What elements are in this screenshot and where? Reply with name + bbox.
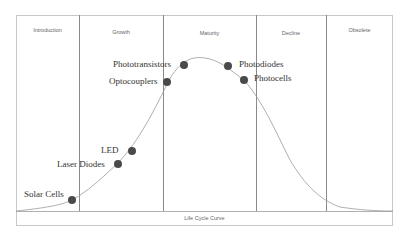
label-laser-diodes: Laser Diodes	[57, 159, 105, 169]
point-photocells	[240, 76, 248, 84]
label-optocouplers: Optocouplers	[109, 76, 158, 86]
point-phototransistors	[180, 61, 188, 69]
point-led	[128, 147, 136, 155]
life-cycle-curve	[0, 0, 410, 239]
diagram-caption: Life Cycle Curve	[16, 215, 393, 221]
label-photodiodes: Photodiodes	[239, 59, 284, 69]
label-photocells: Photocells	[254, 73, 292, 83]
point-laser-diodes	[114, 160, 122, 168]
label-phototransistors: Phototransistors	[113, 59, 171, 69]
point-optocouplers	[163, 78, 171, 86]
label-solar-cells: Solar Cells	[24, 189, 64, 199]
label-led: LED	[101, 145, 119, 155]
point-photodiodes	[224, 62, 232, 70]
point-solar-cells	[68, 196, 76, 204]
